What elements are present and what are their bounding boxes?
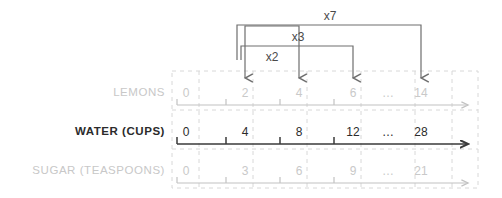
cell-lemons-2: 4 (296, 86, 303, 100)
cell-water-2: 8 (296, 125, 303, 139)
cell-sugar-ellipsis: … (382, 164, 394, 178)
cell-water-3: 12 (346, 125, 359, 139)
cell-sugar-5: 21 (414, 164, 427, 178)
cell-lemons-0: 0 (183, 86, 190, 100)
cell-sugar-2: 6 (296, 164, 303, 178)
grid-outer-border (172, 71, 478, 188)
multiplier-connector-x3 (241, 46, 353, 60)
row-label-sugar: SUGAR (TEASPOONS) (32, 164, 165, 176)
cell-water-5: 28 (414, 125, 427, 139)
cell-water-0: 0 (183, 125, 190, 139)
dashed-grid (172, 71, 478, 188)
cell-lemons-ellipsis: … (382, 86, 394, 100)
multiplier-connectors (237, 25, 421, 78)
multiplier-label-x2: x2 (266, 50, 279, 64)
row-label-water: WATER (CUPS) (75, 125, 165, 137)
cell-sugar-0: 0 (183, 164, 190, 178)
cell-lemons-3: 6 (350, 86, 357, 100)
row-label-lemons: LEMONS (113, 86, 165, 98)
cell-lemons-5: 14 (414, 86, 427, 100)
cell-water-ellipsis: … (382, 125, 394, 139)
multiplier-label-x7: x7 (324, 9, 337, 23)
cell-sugar-3: 9 (350, 164, 357, 178)
cell-water-1: 4 (242, 125, 249, 139)
multiplier-label-x3: x3 (292, 30, 305, 44)
double-number-line-diagram: LEMONS WATER (CUPS) SUGAR (TEASPOONS) 0 … (0, 0, 502, 198)
cell-lemons-1: 2 (242, 86, 249, 100)
cell-sugar-1: 3 (242, 164, 249, 178)
multiplier-connector-x7 (237, 25, 421, 60)
